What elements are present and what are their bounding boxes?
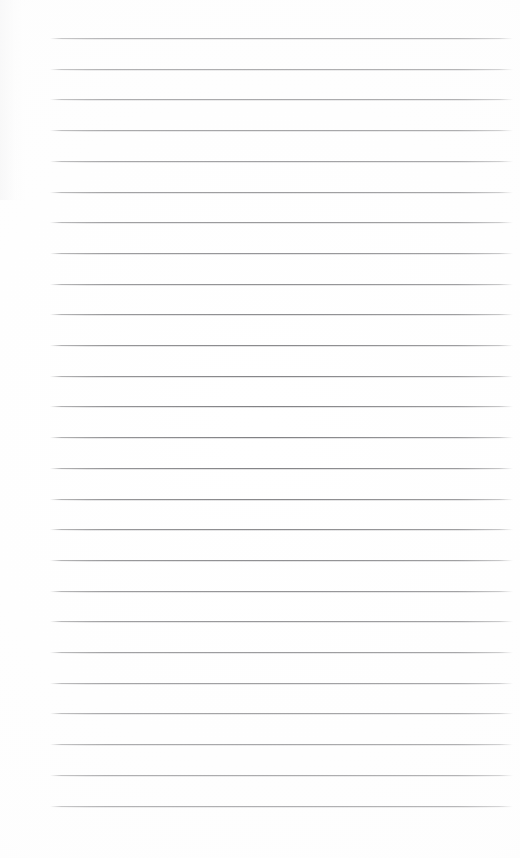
ruled-line bbox=[50, 713, 513, 714]
ruled-line bbox=[50, 345, 513, 346]
ruled-line bbox=[50, 253, 513, 254]
ruled-line bbox=[50, 437, 513, 438]
ruled-line bbox=[50, 192, 513, 193]
ruled-line bbox=[50, 222, 513, 223]
ruled-line bbox=[50, 529, 513, 530]
ruled-line bbox=[50, 69, 513, 70]
ruled-line bbox=[50, 591, 513, 592]
ruled-line bbox=[50, 38, 513, 39]
ruled-line bbox=[50, 775, 513, 776]
ruled-line bbox=[50, 806, 513, 807]
ruled-line bbox=[50, 652, 513, 653]
document-page bbox=[0, 0, 520, 858]
ruled-line bbox=[50, 468, 513, 469]
ruled-line bbox=[50, 376, 513, 377]
ruled-line bbox=[50, 683, 513, 684]
ruled-line bbox=[50, 314, 513, 315]
ruled-line bbox=[50, 621, 513, 622]
ruled-lines-group bbox=[0, 0, 520, 858]
ruled-line bbox=[50, 99, 513, 100]
ruled-line bbox=[50, 744, 513, 745]
ruled-line bbox=[50, 284, 513, 285]
ruled-line bbox=[50, 130, 513, 131]
ruled-line bbox=[50, 406, 513, 407]
ruled-line bbox=[50, 161, 513, 162]
ruled-line bbox=[50, 560, 513, 561]
ruled-line bbox=[50, 499, 513, 500]
